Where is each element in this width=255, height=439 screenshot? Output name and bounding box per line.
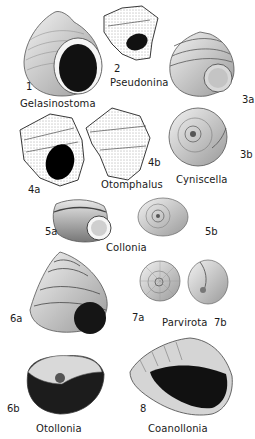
figure-number-6b: 6b	[7, 404, 20, 414]
figure-number-7a: 7a	[132, 313, 145, 323]
figure-number-7b: 7b	[214, 318, 227, 328]
shell-4b-otomphalus	[86, 108, 150, 180]
shell-3a-cyniscella	[170, 32, 234, 96]
figure-plate: 1 2 3a 3b 4a 4b 5a 5b 6a 7a 7b 6b 8 Gela…	[0, 0, 255, 439]
figure-number-3b: 3b	[240, 150, 253, 160]
figure-number-1: 1	[26, 82, 32, 92]
shell-illustrations	[0, 0, 255, 439]
shell-2-pseudonina	[104, 6, 158, 60]
shell-5b-collonia	[138, 198, 188, 236]
genus-label-gelasinostoma: Gelasinostoma	[20, 99, 96, 109]
figure-number-4a: 4a	[28, 185, 41, 195]
shell-3b-cyniscella	[169, 108, 227, 166]
figure-number-4b: 4b	[148, 158, 161, 168]
shell-4a-otomphalus	[20, 114, 84, 186]
shell-6a-otollonia	[30, 252, 107, 334]
genus-label-coanollonia: Coanollonia	[148, 424, 208, 434]
genus-label-otomphalus: Otomphalus	[101, 180, 163, 190]
figure-number-8: 8	[140, 404, 146, 414]
genus-label-parvirota: Parvirota	[162, 318, 207, 328]
shell-7a-parvirota	[140, 261, 180, 301]
genus-label-otollonia: Otollonia	[36, 424, 82, 434]
shell-6b-otollonia	[27, 356, 104, 414]
figure-number-5a: 5a	[45, 227, 58, 237]
figure-number-6a: 6a	[10, 314, 23, 324]
figure-number-2: 2	[114, 64, 120, 74]
shell-7b-parvirota	[188, 260, 228, 304]
shell-5a-collonia	[53, 200, 111, 242]
shell-1-gelasinostoma	[24, 11, 102, 96]
genus-label-collonia: Collonia	[106, 243, 147, 253]
genus-label-cyniscella: Cyniscella	[176, 175, 228, 185]
figure-number-5b: 5b	[205, 227, 218, 237]
genus-label-pseudonina: Pseudonina	[110, 78, 169, 88]
figure-number-3a: 3a	[242, 95, 255, 105]
